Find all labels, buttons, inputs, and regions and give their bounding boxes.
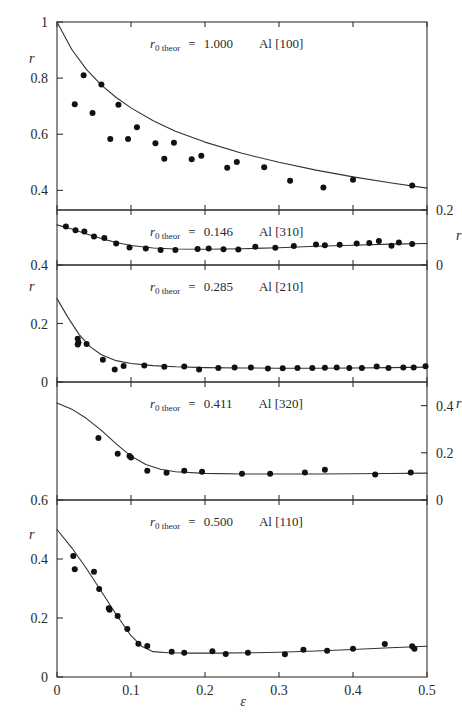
data-point: [400, 364, 406, 370]
data-point: [72, 101, 78, 107]
data-point: [70, 553, 76, 559]
data-point: [388, 243, 394, 249]
y-axis-symbol: r: [29, 527, 35, 542]
annot-subscript: 0 theor: [155, 286, 180, 296]
y-tick-label: 0.4: [31, 258, 49, 273]
y-tick-label: 0.2: [31, 317, 49, 332]
multi-panel-chart: 10.80.60.4rr0 theor=1.000Al [100]0.20rr0…: [0, 0, 462, 717]
data-point: [206, 246, 212, 252]
data-point: [128, 455, 134, 461]
annot-value: 0.285: [204, 279, 233, 294]
data-point: [334, 364, 340, 370]
y-axis-symbol: r: [29, 51, 35, 66]
data-point: [221, 246, 227, 252]
annot-subscript: 0 theor: [155, 521, 180, 531]
data-point: [75, 340, 81, 346]
annot-subscript: 0 theor: [155, 231, 180, 241]
data-point: [152, 140, 158, 146]
data-point: [272, 245, 278, 251]
annot-material: Al [310]: [259, 224, 303, 239]
data-point: [322, 242, 328, 248]
data-point: [359, 365, 365, 371]
y-tick-label: 0.8: [31, 71, 49, 86]
data-point: [107, 607, 113, 613]
data-point: [322, 467, 328, 473]
data-point: [232, 364, 238, 370]
data-point: [209, 648, 215, 654]
data-point: [121, 363, 127, 369]
annot-value: 0.146: [204, 224, 234, 239]
data-point: [409, 241, 415, 247]
figure-container: 10.80.60.4rr0 theor=1.000Al [100]0.20rr0…: [0, 0, 462, 717]
annot-material: Al [110]: [259, 514, 303, 529]
annot-equals: =: [188, 396, 195, 411]
x-tick-label: 0.4: [344, 683, 362, 698]
y-axis-symbol: r: [456, 228, 462, 243]
data-point: [224, 165, 230, 171]
data-point: [372, 472, 378, 478]
data-point: [261, 164, 267, 170]
x-tick-label: 0.2: [196, 683, 214, 698]
data-point: [144, 643, 150, 649]
data-point: [81, 228, 87, 234]
annot-subscript: 0 theor: [155, 403, 180, 413]
data-point: [169, 649, 175, 655]
data-point: [84, 341, 90, 347]
data-point: [90, 110, 96, 116]
annot-value: 0.500: [204, 514, 233, 529]
data-point: [411, 364, 417, 370]
annot-material: Al [100]: [259, 36, 303, 51]
fit-curve: [57, 225, 427, 249]
data-point: [98, 82, 104, 88]
data-point: [91, 569, 97, 575]
data-point: [161, 364, 167, 370]
data-point: [313, 241, 319, 247]
panel-310: 0.20rr0 theor=0.146Al [310]: [57, 203, 462, 273]
fit-curve: [57, 299, 427, 369]
annot-equals: =: [188, 224, 195, 239]
x-tick-label: 0.5: [418, 683, 436, 698]
data-point: [181, 468, 187, 474]
data-point: [127, 244, 133, 250]
y-tick-label: 0.6: [31, 127, 49, 142]
data-point: [124, 626, 130, 632]
data-point: [115, 102, 121, 108]
data-point: [235, 247, 241, 253]
x-axis: 00.10.20.30.40.5ε: [54, 683, 436, 709]
data-point: [350, 177, 356, 183]
y-tick-label: 0.6: [31, 493, 49, 508]
data-point: [346, 365, 352, 371]
data-point: [245, 650, 251, 656]
y-tick-label: 0: [436, 493, 443, 508]
y-axis-symbol: r: [29, 279, 35, 294]
y-tick-label: 0.4: [436, 399, 454, 414]
data-point: [215, 365, 221, 371]
data-point: [115, 613, 121, 619]
data-point: [158, 247, 164, 253]
annot-value: 1.000: [204, 36, 233, 51]
data-point: [144, 468, 150, 474]
data-point: [280, 365, 286, 371]
data-point: [386, 365, 392, 371]
y-tick-label: 0: [41, 670, 48, 685]
data-point: [143, 246, 149, 252]
panel-100: 10.80.60.4rr0 theor=1.000Al [100]: [29, 15, 427, 210]
data-point: [172, 247, 178, 253]
data-point: [107, 136, 113, 142]
data-point: [161, 156, 167, 162]
panel-annotation: r0 theor=0.285Al [210]: [150, 279, 303, 296]
data-point: [302, 470, 308, 476]
data-point: [287, 178, 293, 184]
data-point: [115, 451, 121, 457]
data-point: [73, 227, 79, 233]
data-point: [199, 469, 205, 475]
data-point: [223, 651, 229, 657]
data-point: [374, 364, 380, 370]
data-point: [411, 646, 417, 652]
data-point: [252, 244, 258, 250]
y-tick-label: 0: [436, 258, 443, 273]
annot-subscript: 0 theor: [155, 43, 180, 53]
data-point: [181, 364, 187, 370]
data-point: [300, 647, 306, 653]
data-point: [409, 183, 415, 189]
